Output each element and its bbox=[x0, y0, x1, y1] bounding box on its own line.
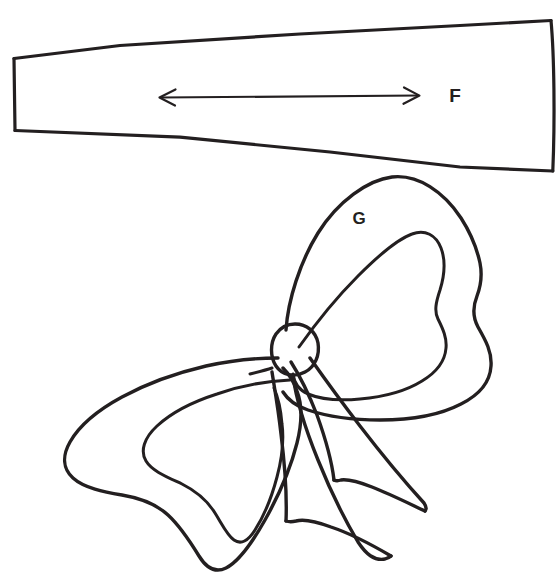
bow-tail-right-outer bbox=[310, 358, 426, 511]
piece-g-bow-group bbox=[65, 177, 491, 570]
bow-tail-right-inner bbox=[334, 480, 425, 511]
piece-f-left-edge bbox=[14, 59, 15, 131]
bow-left-loop-outer bbox=[65, 358, 301, 570]
bow-tail-left-inner bbox=[286, 520, 391, 556]
piece-g-label: G bbox=[352, 209, 365, 228]
bow-right-loop-outer bbox=[283, 177, 491, 420]
bow-right-loop-inner bbox=[293, 232, 446, 400]
pattern-figure: F G bbox=[0, 0, 559, 580]
piece-f-label: F bbox=[449, 85, 461, 106]
pattern-diagram-canvas: F G bbox=[0, 0, 559, 580]
bow-knot-fold-left bbox=[250, 368, 272, 374]
